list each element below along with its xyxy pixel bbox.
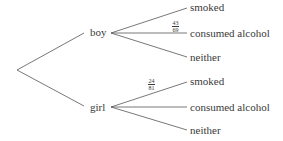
fraction-numerator: 43 <box>172 20 179 27</box>
leaf-girl-alcohol: consumed alcohol <box>190 101 270 113</box>
probability-boy-alcohol: 43 69 <box>172 20 179 33</box>
node-girl: girl <box>90 101 105 113</box>
leaf-girl-smoked: smoked <box>190 75 224 87</box>
probability-girl-smoked: 24 81 <box>148 78 155 91</box>
tree-diagram-lines <box>0 0 283 141</box>
leaf-girl-neither: neither <box>190 124 221 136</box>
fraction-numerator: 24 <box>148 78 155 85</box>
leaf-boy-neither: neither <box>190 51 221 63</box>
leaf-boy-alcohol: consumed alcohol <box>190 27 270 39</box>
fraction-denominator: 81 <box>148 85 155 91</box>
branch-boy-neither <box>111 33 187 57</box>
leaf-boy-smoked: smoked <box>190 1 224 13</box>
branch-root-girl <box>17 70 84 106</box>
branch-root-boy <box>17 33 84 70</box>
node-boy: boy <box>90 26 107 38</box>
branch-girl-neither <box>111 107 187 130</box>
fraction-denominator: 69 <box>172 27 179 33</box>
